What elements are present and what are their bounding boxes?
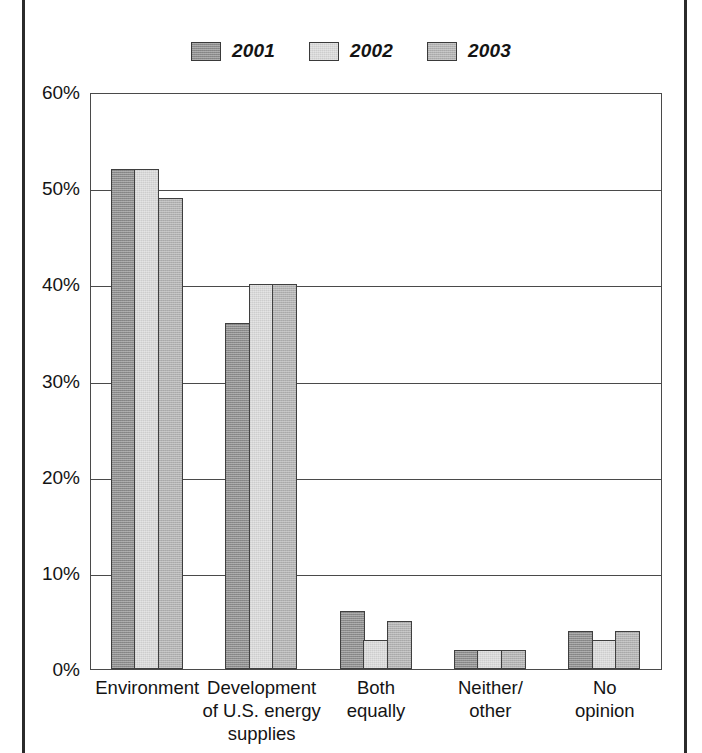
x-axis-label-line: Neither/ xyxy=(458,676,523,699)
legend-label-2003: 2003 xyxy=(468,40,511,62)
bar-2003-0 xyxy=(158,198,183,669)
legend-item-2001: 2001 xyxy=(191,40,275,62)
chart-legend: 200120022003 xyxy=(0,40,702,62)
x-axis-label-line: Development xyxy=(202,676,320,699)
x-axis-label-line: Environment xyxy=(95,676,199,699)
x-axis-label-line: No opinion xyxy=(575,676,635,722)
bar-2002-3 xyxy=(477,650,502,669)
bar-2003-3 xyxy=(501,650,526,669)
chart-plot-area xyxy=(90,93,662,670)
bar-2002-4 xyxy=(592,640,617,669)
bar-2003-4 xyxy=(615,631,640,669)
bar-2001-2 xyxy=(340,611,365,669)
x-axis-label-1: Developmentof U.S. energysupplies xyxy=(202,676,320,745)
bar-group-2 xyxy=(340,94,415,669)
x-axis-label-4: No opinion xyxy=(575,676,635,722)
bar-group-4 xyxy=(568,94,643,669)
bar-2001-1 xyxy=(225,323,250,669)
bar-group-1 xyxy=(225,94,300,669)
bar-2002-0 xyxy=(134,169,159,669)
y-tick-label-20: 20% xyxy=(8,467,80,489)
y-tick-label-10: 10% xyxy=(8,563,80,585)
legend-item-2002: 2002 xyxy=(309,40,393,62)
bar-2001-4 xyxy=(568,631,593,669)
bar-2001-0 xyxy=(111,169,136,669)
legend-item-2003: 2003 xyxy=(427,40,511,62)
x-axis-label-line: Both xyxy=(347,676,406,699)
x-axis-label-line: other xyxy=(458,699,523,722)
legend-swatch-2003 xyxy=(427,42,457,61)
bar-2001-3 xyxy=(454,650,479,669)
page-rule-right xyxy=(684,0,687,753)
x-axis-label-3: Neither/other xyxy=(458,676,523,722)
y-tick-label-30: 30% xyxy=(8,371,80,393)
y-tick-label-0: 0% xyxy=(8,659,80,681)
legend-swatch-2001 xyxy=(191,42,221,61)
y-tick-label-60: 60% xyxy=(8,82,80,104)
x-axis-label-line: equally xyxy=(347,699,406,722)
bar-groups xyxy=(91,94,661,669)
bar-2002-2 xyxy=(363,640,388,669)
x-axis-label-line: of U.S. energy xyxy=(202,699,320,722)
bar-group-0 xyxy=(111,94,186,669)
y-tick-label-50: 50% xyxy=(8,178,80,200)
x-axis-label-0: Environment xyxy=(95,676,199,699)
y-tick-label-40: 40% xyxy=(8,274,80,296)
bar-2003-2 xyxy=(387,621,412,669)
legend-label-2001: 2001 xyxy=(232,40,275,62)
bar-2003-1 xyxy=(272,284,297,669)
bar-group-3 xyxy=(454,94,529,669)
x-axis: EnvironmentDevelopmentof U.S. energysupp… xyxy=(90,676,662,751)
bar-2002-1 xyxy=(249,284,274,669)
x-axis-label-2: Bothequally xyxy=(347,676,406,722)
legend-swatch-2002 xyxy=(309,42,339,61)
legend-label-2002: 2002 xyxy=(350,40,393,62)
x-axis-label-line: supplies xyxy=(202,722,320,745)
